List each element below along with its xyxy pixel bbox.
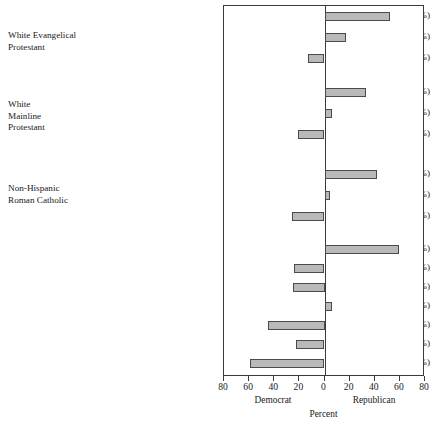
x-axis-title: Percent <box>223 409 424 419</box>
bar <box>250 359 324 368</box>
bar <box>293 283 324 292</box>
axis-tick-label: 80 <box>409 381 436 392</box>
axis-side-label-democrat: Democrat <box>228 395 318 405</box>
bar <box>325 33 346 42</box>
group-label-white-evangelical: White Evangelical Protestant <box>8 30 76 53</box>
bar <box>296 340 325 349</box>
group-label-white-mainline: White Mainline Protestant <box>8 99 45 134</box>
bar <box>325 170 378 179</box>
bar <box>325 302 333 311</box>
bar <box>308 54 324 63</box>
bar <box>325 245 399 254</box>
plot-area <box>223 5 424 376</box>
group-label-roman-catholic: Non-Hispanic Roman Catholic <box>8 183 68 206</box>
bar <box>298 130 324 139</box>
bar <box>325 12 390 21</box>
bar <box>325 191 330 200</box>
bar <box>325 109 333 118</box>
axis-side-label-republican: Republican <box>329 395 419 405</box>
bar <box>292 212 325 221</box>
bar <box>325 88 366 97</box>
bar <box>268 321 325 330</box>
bar <box>294 264 324 273</box>
religious-partisanship-chart: White Evangelical Protestant White Mainl… <box>0 0 436 426</box>
